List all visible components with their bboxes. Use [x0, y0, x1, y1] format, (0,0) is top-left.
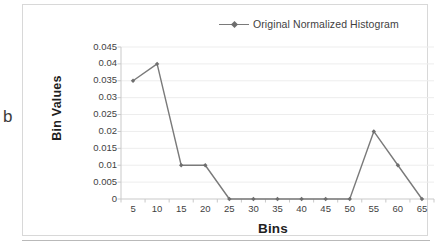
y-tick-label: 0.01 [77, 160, 117, 170]
gridlines [121, 47, 434, 182]
x-tick-label: 25 [216, 204, 242, 214]
y-axis-tick-labels: 0.0450.040.0350.030.0250.020.0150.010.00… [77, 41, 117, 205]
data-point-marker [251, 197, 255, 201]
chart-frame: Original Normalized Histogram Bin Values… [22, 4, 428, 236]
y-tick-label: 0.025 [77, 109, 117, 119]
y-tick-label: 0.03 [77, 92, 117, 102]
y-axis-title: Bin Values [50, 48, 64, 168]
panel-label: b [3, 108, 12, 125]
chart-legend: Original Normalized Histogram [219, 16, 399, 32]
figure-panel: b Original Normalized Histogram Bin Valu… [0, 0, 440, 246]
figure-bottom-rule [22, 240, 430, 241]
axis-lines [118, 47, 435, 199]
y-tick-label: 0.015 [77, 143, 117, 153]
x-tick-label: 65 [409, 204, 435, 214]
y-tick-label: 0.02 [77, 126, 117, 136]
data-point-marker [348, 197, 352, 201]
data-point-marker [299, 197, 303, 201]
x-tick-label: 40 [289, 204, 315, 214]
y-tick-label: 0 [77, 194, 117, 204]
x-tick-label: 20 [192, 204, 218, 214]
y-tick-label: 0.035 [77, 75, 117, 85]
x-tick-label: 50 [337, 204, 363, 214]
x-tick-label: 60 [385, 204, 411, 214]
data-point-marker [179, 163, 183, 167]
legend-label-original-normalized-histogram: Original Normalized Histogram [249, 18, 399, 30]
legend-line-diamond-icon [219, 19, 249, 29]
plot-area [121, 47, 434, 199]
x-axis-tick-labels: 5101520253035404550556065 [121, 204, 434, 218]
x-tick-label: 55 [361, 204, 387, 214]
x-tick-label: 5 [120, 204, 146, 214]
line-chart-svg [121, 47, 434, 199]
x-tick-label: 30 [240, 204, 266, 214]
x-axis-title: Bins [108, 221, 438, 236]
x-tick-label: 15 [168, 204, 194, 214]
y-tick-label: 0.005 [77, 177, 117, 187]
y-tick-label: 0.045 [77, 42, 117, 52]
data-point-marker [275, 197, 279, 201]
x-tick-label: 45 [313, 204, 339, 214]
x-tick-label: 35 [265, 204, 291, 214]
y-tick-label: 0.04 [77, 58, 117, 68]
data-point-marker [323, 197, 327, 201]
x-tick-label: 10 [144, 204, 170, 214]
